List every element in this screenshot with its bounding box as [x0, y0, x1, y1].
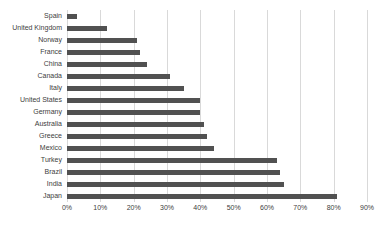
category-label: India	[0, 178, 67, 190]
category-label: Japan	[0, 190, 67, 202]
bar-row: Australia	[0, 118, 367, 130]
bar-track	[67, 194, 367, 199]
category-label: Brazil	[0, 166, 67, 178]
bar-united-kingdom	[67, 26, 107, 31]
category-label: Germany	[0, 106, 67, 118]
category-label: United States	[0, 94, 67, 106]
bar-track	[67, 146, 367, 151]
category-label: Spain	[0, 10, 67, 22]
bar-france	[67, 50, 140, 55]
category-label: Mexico	[0, 142, 67, 154]
bar-brazil	[67, 170, 280, 175]
bar-track	[67, 98, 367, 103]
bar-row: United States	[0, 94, 367, 106]
bar-row: Turkey	[0, 154, 367, 166]
bar-track	[67, 86, 367, 91]
bar-united-states	[67, 98, 200, 103]
bar-track	[67, 74, 367, 79]
category-label: Greece	[0, 130, 67, 142]
bar-china	[67, 62, 147, 67]
x-tick-label: 80%	[319, 203, 349, 213]
bar-india	[67, 182, 284, 187]
bar-rows: SpainUnited KingdomNorwayFranceChinaCana…	[0, 10, 367, 202]
x-tick-label: 70%	[285, 203, 315, 213]
bar-track	[67, 38, 367, 43]
category-label: Norway	[0, 34, 67, 46]
bar-row: Spain	[0, 10, 367, 22]
bar-track	[67, 158, 367, 163]
x-axis: 0%10%20%30%40%50%60%70%80%90%	[0, 203, 386, 215]
bar-mexico	[67, 146, 214, 151]
bar-italy	[67, 86, 184, 91]
x-tick-label: 60%	[252, 203, 282, 213]
bar-row: United Kingdom	[0, 22, 367, 34]
bar-track	[67, 122, 367, 127]
bar-row: Norway	[0, 34, 367, 46]
bar-canada	[67, 74, 170, 79]
horizontal-bar-chart: SpainUnited KingdomNorwayFranceChinaCana…	[0, 0, 386, 229]
bar-germany	[67, 110, 200, 115]
bar-japan	[67, 194, 337, 199]
x-tick-label: 20%	[119, 203, 149, 213]
bar-row: Germany	[0, 106, 367, 118]
bar-row: Italy	[0, 82, 367, 94]
bar-track	[67, 62, 367, 67]
bar-row: Canada	[0, 70, 367, 82]
bar-track	[67, 26, 367, 31]
x-tick-label: 40%	[185, 203, 215, 213]
bar-row: Greece	[0, 130, 367, 142]
x-tick-label: 0%	[52, 203, 82, 213]
category-label: Italy	[0, 82, 67, 94]
bar-row: France	[0, 46, 367, 58]
bar-norway	[67, 38, 137, 43]
bar-spain	[67, 14, 77, 19]
category-label: France	[0, 46, 67, 58]
bar-row: Brazil	[0, 166, 367, 178]
bar-row: India	[0, 178, 367, 190]
bar-track	[67, 110, 367, 115]
bar-track	[67, 182, 367, 187]
bar-row: Japan	[0, 190, 367, 202]
bar-track	[67, 14, 367, 19]
gridline-90%	[367, 10, 368, 202]
bar-greece	[67, 134, 207, 139]
category-label: China	[0, 58, 67, 70]
bar-row: Mexico	[0, 142, 367, 154]
category-label: Canada	[0, 70, 67, 82]
bar-track	[67, 134, 367, 139]
bar-turkey	[67, 158, 277, 163]
x-tick-label: 50%	[219, 203, 249, 213]
x-tick-label: 90%	[352, 203, 382, 213]
bar-row: China	[0, 58, 367, 70]
category-label: Turkey	[0, 154, 67, 166]
x-tick-label: 10%	[85, 203, 115, 213]
x-tick-label: 30%	[152, 203, 182, 213]
bar-track	[67, 170, 367, 175]
bar-australia	[67, 122, 204, 127]
bar-track	[67, 50, 367, 55]
category-label: Australia	[0, 118, 67, 130]
category-label: United Kingdom	[0, 22, 67, 34]
